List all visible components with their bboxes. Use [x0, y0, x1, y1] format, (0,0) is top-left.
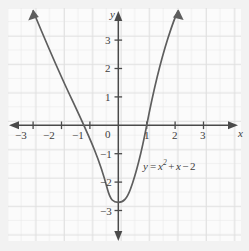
x-axis-name: x	[238, 128, 243, 139]
y-tick-label-minus-1: −1	[100, 149, 112, 160]
x-tick-label-2: 2	[172, 130, 178, 141]
equation-minus: −	[182, 160, 188, 172]
equation-lhs: y	[143, 160, 148, 172]
x-tick-label-minus-2: −2	[43, 130, 55, 141]
equation-plus: +	[168, 160, 174, 172]
y-tick-label-minus-2: −2	[100, 177, 112, 188]
equation-annotation: y=x2+x−2	[143, 159, 196, 172]
equation-constant: 2	[190, 160, 196, 172]
x-tick-label-minus-1: −1	[72, 130, 84, 141]
graph-canvas	[0, 0, 249, 251]
x-tick-label-zero: 0	[105, 129, 111, 140]
equation-term1-exponent: 2	[163, 158, 167, 167]
equation-term2: x	[176, 160, 181, 172]
y-tick-label-minus-3: −3	[100, 206, 112, 217]
x-tick-label-3: 3	[200, 130, 206, 141]
equation-equals: =	[150, 160, 156, 172]
x-tick-label-1: 1	[144, 130, 150, 141]
y-tick-label-1: 1	[105, 92, 111, 103]
y-tick-label-2: 2	[105, 63, 111, 74]
graph-figure: −3 −2 −1 0 1 2 3 3 2 1 −1 −2 −3 y x y=x2…	[0, 0, 249, 251]
y-axis-name: y	[110, 9, 115, 20]
x-tick-label-minus-3: −3	[15, 130, 27, 141]
y-tick-label-3: 3	[105, 35, 111, 46]
